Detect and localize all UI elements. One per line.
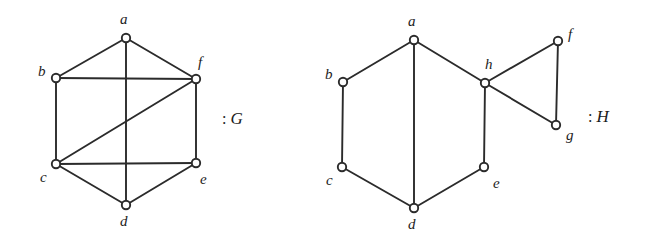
caption-colon-h: : <box>588 108 592 125</box>
vertex-h-b <box>339 78 347 86</box>
vertex-label-h-f: f <box>568 27 572 42</box>
caption-name-h: H <box>596 107 608 126</box>
vertex-h-e <box>480 163 488 171</box>
vertex-label-g-f: f <box>198 55 202 70</box>
vertex-h-h <box>481 79 489 87</box>
edge-h-hf <box>485 41 558 83</box>
vertex-label-h-h: h <box>485 57 493 72</box>
vertex-label-h-c: c <box>326 173 333 188</box>
graph-caption-g: :G <box>222 110 243 127</box>
edge-g-de <box>126 163 196 205</box>
vertex-label-h-d: d <box>408 217 416 232</box>
edge-h-eh <box>484 83 485 167</box>
vertex-label-h-b: b <box>325 67 333 82</box>
vertex-label-g-e: e <box>200 172 207 187</box>
edge-h-ah <box>414 40 485 83</box>
vertex-label-g-b: b <box>38 64 46 79</box>
edge-g-af <box>126 38 196 79</box>
edge-g-ab <box>56 38 126 78</box>
vertex-label-h-a: a <box>408 14 416 29</box>
vertex-label-g-a: a <box>120 12 128 27</box>
vertex-g-c <box>52 160 60 168</box>
caption-name-g: G <box>230 109 242 128</box>
vertex-h-f <box>554 37 562 45</box>
vertex-h-g <box>552 121 560 129</box>
caption-colon-g: : <box>222 110 226 127</box>
edge-g-cd <box>56 164 126 205</box>
graph-figure: abfced:Gabhfgced:H <box>0 0 646 245</box>
graph-drawing-canvas <box>0 0 646 245</box>
edge-h-cd <box>342 167 414 208</box>
graph-H <box>338 36 562 212</box>
vertex-label-g-d: d <box>120 214 128 229</box>
vertex-g-d <box>122 201 130 209</box>
vertex-g-a <box>122 34 130 42</box>
edge-g-bf <box>56 78 196 79</box>
vertex-label-h-e: e <box>493 176 500 191</box>
edge-g-ce <box>56 163 196 164</box>
vertex-h-d <box>410 204 418 212</box>
vertex-h-a <box>410 36 418 44</box>
edge-h-fg <box>556 41 558 125</box>
graph-caption-h: :H <box>588 108 609 125</box>
edge-h-bc <box>342 82 343 167</box>
vertex-label-g-c: c <box>40 170 47 185</box>
vertex-g-e <box>192 159 200 167</box>
vertex-h-c <box>338 163 346 171</box>
graph-G <box>52 34 200 209</box>
edge-h-hg <box>485 83 556 125</box>
edge-h-ab <box>343 40 414 82</box>
vertex-g-f <box>192 75 200 83</box>
vertex-label-h-g: g <box>566 128 574 143</box>
edge-h-de <box>414 167 484 208</box>
vertex-g-b <box>52 74 60 82</box>
